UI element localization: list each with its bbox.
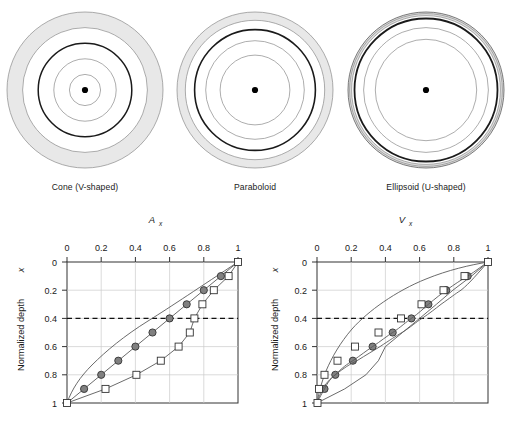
volume-chart-xtick-1: 0.2 <box>345 243 358 253</box>
chart-row: A x Normalized depth x <box>0 205 511 424</box>
lake-panel-paraboloid: Paraboloid <box>170 0 340 205</box>
data-point-square <box>199 301 206 308</box>
volume-chart-xtick-2: 0.4 <box>379 243 392 253</box>
volume-chart-ytick-0: 0 <box>302 258 307 268</box>
data-point-square <box>102 385 109 392</box>
volume-chart-ytick-3: 0.6 <box>294 342 307 352</box>
area-chart-plot-area <box>62 257 242 407</box>
lake-panel-cone: Cone (V-shaped) <box>0 0 170 205</box>
ellipsoid-contour-svg <box>341 0 511 180</box>
area-chart-svg: A x Normalized depth x <box>0 205 256 424</box>
volume-chart-xtick-3: 0.6 <box>413 243 426 253</box>
area-chart-left-ticks <box>62 262 67 403</box>
data-point-circle <box>166 315 173 322</box>
volume-chart-ylabel: Normalized depth <box>270 299 280 371</box>
cone-center-dot <box>82 87 88 93</box>
area-chart-xtick-0: 0 <box>64 243 69 253</box>
volume-chart-plot-area <box>312 257 492 407</box>
volume-chart-xtick-0: 0 <box>314 243 319 253</box>
area-chart-ytick-1: 0.2 <box>44 286 57 296</box>
data-point-square <box>314 400 321 407</box>
area-chart-ytick-3: 0.6 <box>44 342 57 352</box>
figure-root: Cone (V-shaped) Paraboloid <box>0 0 511 424</box>
data-point-square <box>334 357 341 364</box>
cone-contour-svg <box>0 0 170 180</box>
data-point-circle <box>149 329 156 336</box>
lake-caption-cone: Cone (V-shaped) <box>0 182 170 192</box>
volume-chart-xtick-4: 0.8 <box>448 243 461 253</box>
lake-panel-ellipsoid: Ellipsoid (U-shaped) <box>341 0 511 205</box>
volume-chart-svg: V x Normalized depth x <box>256 205 511 424</box>
area-chart-ytick-5: 1 <box>52 399 57 409</box>
data-point-circle <box>217 273 224 280</box>
data-point-square <box>440 287 447 294</box>
data-point-square <box>418 301 425 308</box>
data-point-square <box>375 329 382 336</box>
area-chart-xtick-2: 0.4 <box>129 243 142 253</box>
area-chart-title: A <box>148 214 155 225</box>
volume-chart-title-subscript: x <box>408 220 413 227</box>
chart-panel-volume: V x Normalized depth x <box>256 205 511 424</box>
paraboloid-center-dot <box>252 87 258 93</box>
data-point-square <box>398 315 405 322</box>
data-point-square <box>64 400 71 407</box>
data-point-square <box>175 343 182 350</box>
volume-chart-ytick-4: 0.8 <box>294 370 307 380</box>
data-point-square <box>321 371 328 378</box>
lake-caption-paraboloid: Paraboloid <box>170 182 340 192</box>
area-chart-ytick-4: 0.8 <box>44 370 57 380</box>
data-point-square <box>461 273 468 280</box>
data-point-circle <box>183 301 190 308</box>
area-chart-xtick-5: 1 <box>235 243 240 253</box>
volume-chart-ylabel-italic: x <box>270 267 280 273</box>
lake-caption-ellipsoid: Ellipsoid (U-shaped) <box>341 182 511 192</box>
volume-chart-xtick-5: 1 <box>485 243 490 253</box>
area-chart-ytick-0: 0 <box>52 258 57 268</box>
area-chart-title-subscript: x <box>158 220 163 227</box>
area-chart-top-ticks <box>67 257 238 262</box>
data-point-square <box>133 371 140 378</box>
data-point-square <box>225 273 232 280</box>
data-point-square <box>235 259 242 266</box>
volume-chart-ytick-2: 0.4 <box>294 314 307 324</box>
volume-chart-ytick-1: 0.2 <box>294 286 307 296</box>
volume-chart-ytick-5: 1 <box>302 399 307 409</box>
chart-panel-area: A x Normalized depth x <box>0 205 256 424</box>
paraboloid-contour-svg <box>170 0 340 180</box>
data-point-square <box>210 287 217 294</box>
data-point-circle <box>115 357 122 364</box>
lake-diagram-row: Cone (V-shaped) Paraboloid <box>0 0 511 205</box>
volume-chart-title: V <box>399 214 407 225</box>
data-point-circle <box>200 287 207 294</box>
area-chart-xtick-4: 0.8 <box>198 243 211 253</box>
area-chart-xtick-1: 0.2 <box>95 243 108 253</box>
data-point-square <box>352 343 359 350</box>
area-chart-xtick-3: 0.6 <box>163 243 176 253</box>
data-point-circle <box>132 343 139 350</box>
volume-chart-top-ticks <box>317 257 488 262</box>
area-chart-ylabel: Normalized depth <box>16 299 26 371</box>
volume-chart-left-ticks <box>312 262 317 403</box>
area-chart-ylabel-italic: x <box>16 267 26 273</box>
data-point-circle <box>81 385 88 392</box>
data-point-square <box>157 357 164 364</box>
area-chart-ytick-2: 0.4 <box>44 314 57 324</box>
data-point-square <box>186 329 193 336</box>
data-point-square <box>191 315 198 322</box>
data-point-square <box>316 385 323 392</box>
data-point-circle <box>98 371 105 378</box>
data-point-square <box>485 259 492 266</box>
ellipsoid-center-dot <box>423 87 429 93</box>
